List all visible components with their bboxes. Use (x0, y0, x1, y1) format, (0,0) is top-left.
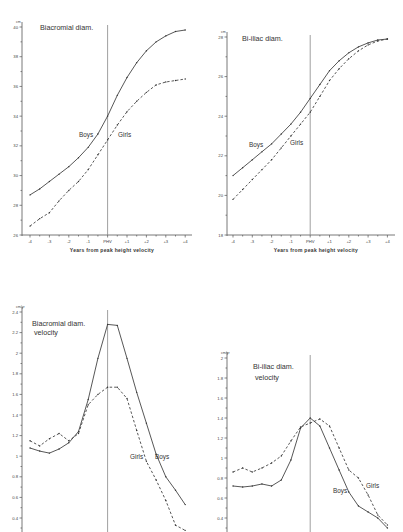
data-point (242, 486, 243, 487)
data-point (136, 392, 137, 393)
chart-title-line2: velocity (255, 373, 279, 382)
data-point (78, 433, 79, 434)
data-point (68, 166, 69, 167)
y-tick-label: 0.6 (12, 495, 18, 500)
data-point (232, 471, 233, 472)
series-label-girls: Girls (366, 482, 379, 489)
data-point (68, 440, 69, 441)
data-point (29, 447, 30, 448)
data-point (107, 386, 108, 387)
data-point (300, 426, 301, 427)
y-tick-label: 2 (221, 356, 224, 361)
data-point (348, 469, 349, 470)
series-label-boys: Boys (333, 487, 347, 495)
series-label-boys: Boys (79, 131, 93, 139)
y-tick-label: 1.6 (12, 392, 18, 397)
data-point (175, 525, 176, 526)
data-point (39, 188, 40, 189)
data-point (329, 425, 330, 426)
data-point (242, 467, 243, 468)
y-tick-label: 1.4 (217, 416, 223, 421)
data-point (88, 147, 89, 148)
data-point (68, 442, 69, 443)
data-point (49, 212, 50, 213)
data-point (78, 157, 79, 158)
y-tick-label: 28 (218, 35, 223, 40)
data-point (252, 159, 253, 160)
data-point (232, 175, 233, 176)
data-point (271, 159, 272, 160)
data-point (117, 124, 118, 125)
data-point (338, 447, 339, 448)
data-point (165, 476, 166, 477)
x-tick-label: +3 (366, 239, 371, 244)
data-point (252, 485, 253, 486)
data-point (310, 98, 311, 99)
data-point (146, 50, 147, 51)
data-point (165, 500, 166, 501)
data-point (261, 169, 262, 170)
data-point (126, 77, 127, 78)
chart-biiliac-velocity: 0.40.60.811.21.41.61.82cm/yrBi-iliac dia… (217, 351, 388, 532)
data-point (281, 133, 282, 134)
data-point (300, 123, 301, 124)
x-tick-label: +1 (125, 239, 130, 244)
y-tick-label: 2.2 (12, 330, 18, 335)
data-point (165, 35, 166, 36)
data-point (146, 92, 147, 93)
x-tick-label: -1 (86, 239, 90, 244)
data-point (367, 44, 368, 45)
data-point (310, 112, 311, 113)
x-tick-label: +1 (327, 239, 332, 244)
data-point (319, 84, 320, 85)
data-point (252, 471, 253, 472)
data-point (185, 29, 186, 30)
data-point (377, 517, 378, 518)
growth-charts-figure: 2628303234363840cm-4-3-2-1PHV+1+2+3+4Yea… (0, 0, 403, 532)
x-tick-label: -4 (28, 239, 32, 244)
y-tick-label: 18 (218, 233, 223, 238)
y-tick-label: 22 (218, 153, 223, 158)
data-point (242, 189, 243, 190)
data-point (49, 452, 50, 453)
data-point (290, 440, 291, 441)
y-tick-label: 0.8 (217, 476, 223, 481)
data-point (290, 123, 291, 124)
x-tick-label: -1 (289, 239, 293, 244)
data-point (252, 179, 253, 180)
data-point (319, 96, 320, 97)
x-tick-label: +2 (346, 239, 351, 244)
data-point (271, 462, 272, 463)
data-point (310, 422, 311, 423)
data-point (97, 154, 98, 155)
data-point (290, 135, 291, 136)
data-point (261, 467, 262, 468)
data-point (348, 52, 349, 53)
y-tick-label: 2 (16, 351, 19, 356)
data-point (329, 70, 330, 71)
data-point (358, 505, 359, 506)
y-tick-label: 30 (13, 173, 18, 178)
x-tick-label: -2 (67, 239, 71, 244)
x-tick-label: +4 (385, 239, 390, 244)
series-label-girls: Girls (130, 453, 143, 460)
data-point (97, 133, 98, 134)
data-point (281, 147, 282, 148)
x-tick-label: -3 (250, 239, 254, 244)
data-point (358, 50, 359, 51)
data-point (117, 95, 118, 96)
data-point (242, 167, 243, 168)
data-point (367, 42, 368, 43)
data-point (107, 324, 108, 325)
x-tick-label: -4 (231, 239, 235, 244)
y-unit-label: cm/yr (16, 305, 25, 309)
y-tick-label: 38 (13, 54, 18, 59)
data-point (232, 199, 233, 200)
data-point (29, 440, 30, 441)
data-point (387, 527, 388, 528)
data-point (271, 143, 272, 144)
y-tick-label: 20 (218, 193, 223, 198)
x-tick-label: PHV (103, 239, 112, 244)
data-point (39, 450, 40, 451)
y-tick-label: 32 (13, 143, 18, 148)
